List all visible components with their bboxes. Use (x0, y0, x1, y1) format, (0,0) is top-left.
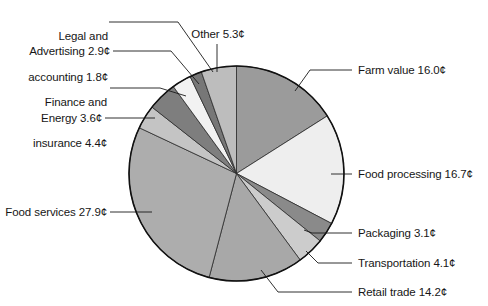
label-advertising: Advertising 2.9¢ (4, 45, 110, 59)
label-farm-value: Farm value 16.0¢ (358, 64, 486, 78)
pie-chart-figure: Legal and accounting 1.8¢ Advertising 2.… (0, 0, 488, 306)
label-retail-trade: Retail trade 14.2¢ (358, 286, 482, 300)
leader-line-transportation (306, 251, 352, 263)
label-legal-and-accounting-line1: Legal and (4, 30, 108, 44)
label-packaging: Packaging 3.1¢ (358, 227, 478, 241)
label-finance-and-insurance-line2: insurance 4.4¢ (4, 137, 107, 151)
label-finance-and-insurance-line1: Finance and (4, 96, 107, 110)
label-food-processing: Food processing 16.7¢ (358, 168, 488, 182)
leader-line-farm-value (295, 70, 352, 91)
pie-slices-group (129, 66, 344, 281)
label-energy: Energy 3.6¢ (4, 112, 102, 126)
label-food-services: Food services 27.9¢ (2, 206, 107, 220)
label-other: Other 5.3¢ (180, 28, 256, 42)
label-transportation: Transportation 4.1¢ (358, 257, 482, 271)
